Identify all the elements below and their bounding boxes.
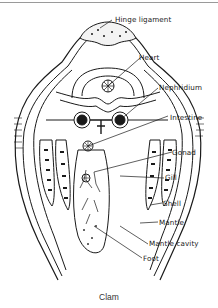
hinge-ligament-shape — [80, 22, 136, 46]
gill-shapes-left — [40, 140, 71, 210]
label-hinge-ligament: Hinge ligament — [115, 15, 171, 24]
label-nephridium: Nephridium — [159, 83, 202, 92]
label-mantle-cavity: Mantle cavity — [149, 239, 199, 248]
heart-region — [56, 68, 160, 112]
label-foot: Foot — [143, 254, 159, 263]
visceral-mass — [74, 150, 110, 253]
label-gonad: Gonad — [172, 148, 196, 157]
label-gill: Gill — [165, 173, 177, 182]
label-heart: Heart — [139, 53, 160, 62]
figure-caption: Clam — [0, 292, 218, 302]
label-shell: Shell — [163, 199, 181, 208]
label-intestine: Intestine — [170, 113, 202, 122]
label-mantle: Mantle — [159, 218, 184, 227]
